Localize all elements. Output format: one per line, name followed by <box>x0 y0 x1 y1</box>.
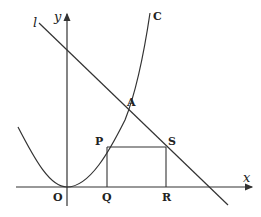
point-s-label: S <box>168 135 176 148</box>
curve-c-label: C <box>153 10 162 23</box>
point-a-label: A <box>126 96 136 109</box>
point-p-label: P <box>95 135 103 148</box>
origin-label: O <box>53 191 63 204</box>
diagram-canvas: l y x C A P S O Q R <box>0 0 261 217</box>
x-axis-label: x <box>243 170 251 185</box>
y-axis-label: y <box>53 9 62 24</box>
line-l-label: l <box>33 15 37 30</box>
point-r-label: R <box>162 191 172 204</box>
point-q-label: Q <box>102 191 112 204</box>
